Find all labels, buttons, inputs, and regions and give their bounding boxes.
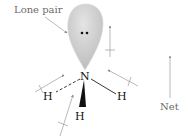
dipole-arrow-front <box>58 95 73 136</box>
atom-nitrogen: N <box>80 70 90 83</box>
lone-pair-electron <box>81 32 84 35</box>
bond-n-h-left-dashed <box>56 79 80 92</box>
lone-pair-lobe <box>68 4 103 70</box>
lone-pair-electron <box>86 32 89 35</box>
dipole-arrow-right <box>108 70 138 86</box>
atom-hydrogen-left: H <box>43 90 53 103</box>
atom-hydrogen-right: H <box>117 90 127 103</box>
lone-pair-leader-arrow <box>45 17 67 33</box>
bond-n-h-right <box>91 79 116 94</box>
net-label: Net <box>160 101 179 112</box>
dipole-arrow-lone-pair <box>105 26 115 57</box>
lone-pair-label: Lone pair <box>14 4 63 15</box>
atom-hydrogen-front: H <box>75 110 85 123</box>
ammonia-dipole-diagram: Lone pair N H H H Net <box>0 0 188 138</box>
bond-n-h-front-wedge <box>79 80 86 107</box>
